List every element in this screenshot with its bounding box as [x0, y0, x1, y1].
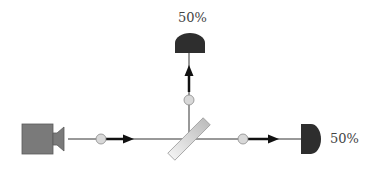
detector-top-probability-label: 50%: [178, 11, 207, 24]
photon-up-icon: [184, 95, 194, 105]
arrow-incoming-icon: [106, 135, 134, 144]
detector-right-probability-label: 50%: [330, 132, 359, 145]
camera-icon: [22, 124, 64, 154]
detector-top-icon: [175, 33, 205, 53]
arrow-up-icon: [185, 65, 194, 92]
arrow-right-icon: [248, 135, 279, 144]
beam-paths: [68, 52, 302, 139]
photon-incoming-icon: [96, 134, 106, 144]
detector-right-icon: [301, 124, 321, 154]
diagram-canvas: [0, 0, 373, 170]
beam-splitter-diagram: 50% 50%: [0, 0, 373, 170]
photon-right-icon: [238, 134, 248, 144]
